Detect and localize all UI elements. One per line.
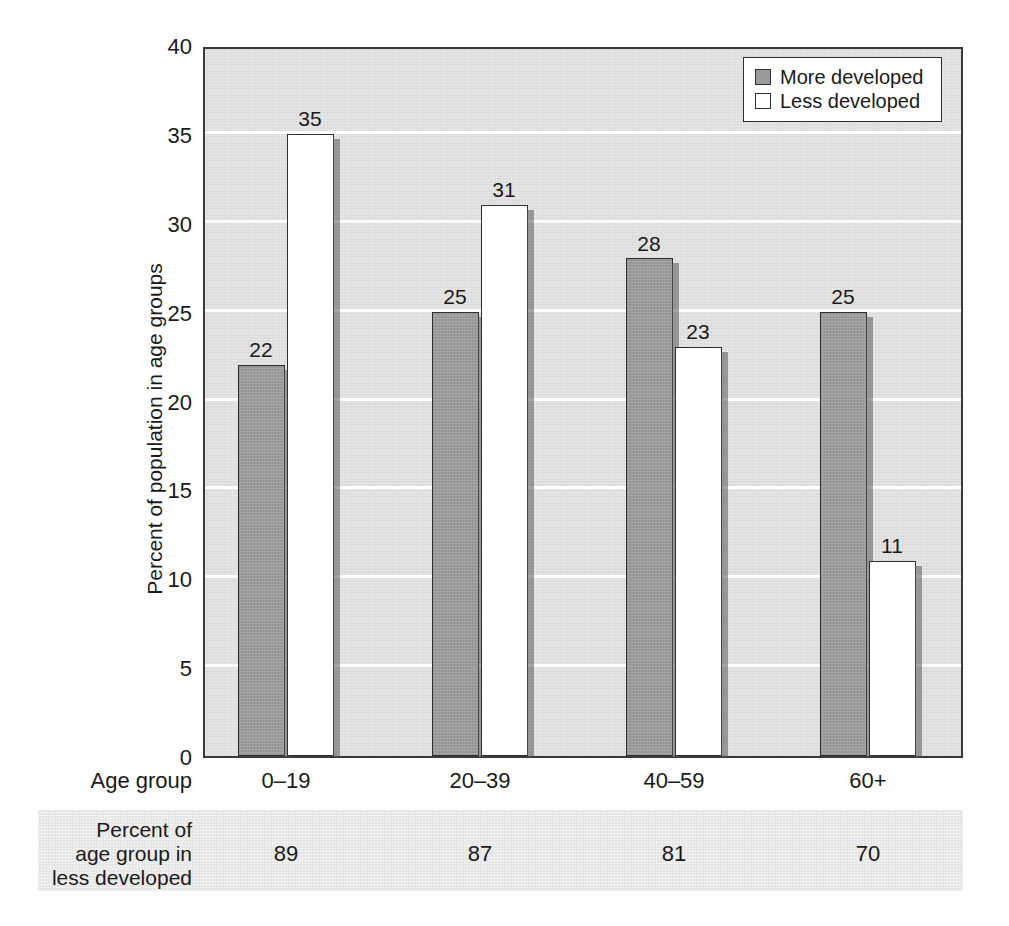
y-tick-40: 40 — [132, 36, 192, 58]
annotation-table-row-label-line3: less developed — [38, 866, 192, 890]
legend: More developed Less developed — [743, 57, 942, 122]
y-axis-title: Percent of population in age groups — [143, 159, 167, 699]
y-axis: 40 35 30 25 20 15 10 5 0 Percent of popu… — [120, 47, 192, 758]
annotation-table: Percent of age group in less developed 8… — [38, 810, 963, 891]
bar-less-developed-40-59 — [675, 347, 722, 756]
legend-label-more-developed: More developed — [780, 67, 923, 87]
bar-more-developed-0-19 — [238, 365, 285, 756]
annotation-table-row-label-line1: Percent of — [38, 818, 192, 842]
bar-value-less-60-plus: 11 — [857, 534, 927, 558]
bar-less-developed-0-19 — [287, 134, 334, 756]
annotation-table-cell-60-plus: 70 — [808, 842, 928, 866]
legend-swatch-gray-square-icon — [755, 69, 771, 85]
legend-swatch-white-square-icon — [755, 93, 771, 109]
y-tick-35: 35 — [132, 125, 192, 147]
bar-value-more-60-plus: 25 — [808, 285, 878, 309]
bar-value-less-0-19: 35 — [275, 107, 345, 131]
bar-value-less-20-39: 31 — [469, 178, 539, 202]
bar-value-less-40-59: 23 — [663, 320, 733, 344]
x-axis-row-label: Age group — [0, 766, 192, 796]
plot-area: 22 35 25 31 28 23 25 11 More developed L… — [203, 47, 963, 758]
annotation-table-row-label: Percent of age group in less developed — [38, 818, 192, 890]
x-tick-20-39: 20–39 — [420, 766, 540, 796]
bar-more-developed-20-39 — [432, 312, 479, 756]
x-tick-60-plus: 60+ — [808, 766, 928, 796]
legend-item-less-developed: Less developed — [755, 89, 931, 113]
bar-value-more-40-59: 28 — [614, 232, 684, 256]
x-axis-row: Age group 0–19 20–39 40–59 60+ — [0, 766, 963, 800]
legend-label-less-developed: Less developed — [780, 91, 920, 111]
bar-value-more-0-19: 22 — [226, 338, 296, 362]
annotation-table-cell-40-59: 81 — [614, 842, 734, 866]
x-tick-40-59: 40–59 — [614, 766, 734, 796]
x-tick-0-19: 0–19 — [226, 766, 346, 796]
bar-less-developed-60-plus — [869, 561, 916, 757]
bar-value-more-20-39: 25 — [420, 285, 490, 309]
annotation-table-cell-0-19: 89 — [226, 842, 346, 866]
legend-item-more-developed: More developed — [755, 65, 931, 89]
annotation-table-cell-20-39: 87 — [420, 842, 540, 866]
annotation-table-row-label-line2: age group in — [38, 842, 192, 866]
